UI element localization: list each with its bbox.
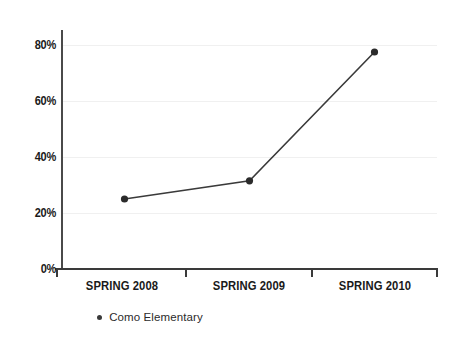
legend-dot-icon xyxy=(97,315,102,320)
data-point-spring-2009 xyxy=(246,177,253,184)
data-point-spring-2010 xyxy=(371,48,378,55)
series-line xyxy=(125,52,375,199)
chart-legend: Como Elementary xyxy=(0,312,300,324)
line-chart: 80% 60% 40% 20% 0% SPRING 2008 SPRING 20… xyxy=(0,0,461,342)
data-series-como-elementary xyxy=(0,0,461,342)
data-point-spring-2008 xyxy=(121,195,128,202)
legend-item-label: Como Elementary xyxy=(109,312,203,324)
